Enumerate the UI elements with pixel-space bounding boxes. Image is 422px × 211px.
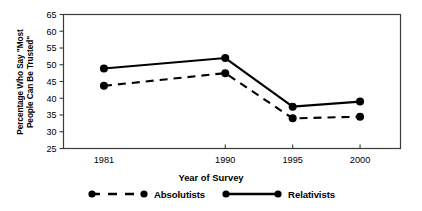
data-point-relativists (100, 64, 108, 72)
legend-label-relativists: Relativists (288, 189, 335, 200)
data-point-relativists (356, 98, 364, 106)
chart-legend: Absolutists Relativists (0, 188, 422, 200)
legend-swatch-dashed (87, 188, 149, 200)
legend-item-relativists: Relativists (221, 188, 335, 200)
data-point-absolutists (289, 114, 297, 122)
plot-frame (64, 15, 401, 149)
data-point-absolutists (100, 82, 108, 90)
y-tick-label: 35 (46, 110, 56, 120)
series-line-relativists (104, 58, 360, 107)
data-point-absolutists (221, 69, 229, 77)
axis-frame (64, 15, 401, 149)
data-point-relativists (221, 54, 229, 62)
x-tick-label: 1995 (282, 155, 302, 165)
y-tick-label: 25 (46, 144, 56, 154)
x-axis-label: Year of Survey (0, 172, 422, 183)
data-point-relativists (289, 103, 297, 111)
y-tick-label: 40 (46, 94, 56, 104)
series-absolutists (100, 69, 364, 122)
x-tick-label: 1981 (94, 155, 114, 165)
x-tick-label: 1990 (215, 155, 235, 165)
chart-figure: Percentage Who Say "Most People Can Be T… (0, 0, 422, 211)
y-tick-label: 30 (46, 127, 56, 137)
y-tick-label: 60 (46, 27, 56, 37)
y-tick-label: 45 (46, 77, 56, 87)
y-tick-label: 65 (46, 10, 56, 20)
legend-label-absolutists: Absolutists (154, 189, 205, 200)
legend-swatch-solid (221, 188, 283, 200)
x-axis-ticks: 1981199019952000 (94, 145, 371, 165)
y-tick-label: 55 (46, 43, 56, 53)
series-line-absolutists (104, 73, 360, 118)
x-tick-label: 2000 (350, 155, 370, 165)
y-axis-ticks: 253035404550556065 (46, 10, 63, 154)
legend-item-absolutists: Absolutists (87, 188, 205, 200)
data-point-absolutists (356, 113, 364, 121)
y-tick-label: 50 (46, 60, 56, 70)
